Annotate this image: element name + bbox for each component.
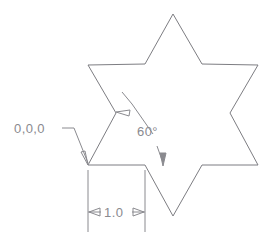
star-outline-shape <box>88 14 258 216</box>
angle-leader-tick <box>122 92 132 104</box>
angle-leader-upper-arrowhead <box>116 110 130 116</box>
angle-leader-lower-arrowhead <box>160 153 166 166</box>
origin-coordinate-label: 0,0,0 <box>14 121 45 136</box>
cad-drawing-svg: 0,0,0 60° 1.0 <box>0 0 275 243</box>
cad-drawing-canvas: 0,0,0 60° 1.0 <box>0 0 275 243</box>
angle-value-label: 60° <box>137 124 158 139</box>
length-dimension-label: 1.0 <box>104 205 123 220</box>
